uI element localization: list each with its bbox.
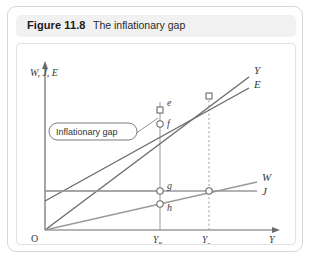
tick-yf-sub: F (157, 240, 163, 245)
x-axis-label: Y (269, 234, 276, 244)
curve-label-Y: Y (254, 64, 262, 76)
callout-label: Inflationary gap (56, 127, 118, 137)
point-marker-h (157, 201, 163, 207)
inflationary-gap-diagram: Y E W J e f g h W, J, E Y O YF (17, 44, 295, 244)
origin-label: O (31, 233, 38, 244)
point-marker-e (157, 107, 163, 113)
point-marker-ye-injections (206, 188, 212, 194)
e-expenditure-line (45, 88, 249, 201)
curve-label-J: J (262, 185, 268, 197)
curve-label-E: E (253, 78, 261, 90)
figure-header: Figure 11.8 The inflationary gap (16, 15, 296, 37)
figure-caption: The inflationary gap (93, 19, 185, 31)
y-axis-label: W, J, E (30, 67, 58, 78)
figure-card: Figure 11.8 The inflationary gap (7, 6, 303, 252)
point-marker-f (157, 121, 163, 127)
point-label-h: h (167, 202, 172, 213)
point-label-f: f (167, 118, 171, 129)
x-tick-yf: YF (153, 235, 163, 244)
tick-ye-sub: e (207, 240, 210, 245)
x-tick-ye: Ye (202, 235, 210, 244)
point-marker-ye-expenditure (206, 93, 212, 99)
curve-label-W: W (262, 171, 272, 183)
point-label-g: g (167, 180, 172, 191)
inflationary-gap-callout: Inflationary gap (49, 118, 158, 140)
point-label-e: e (167, 97, 172, 108)
point-marker-g (157, 188, 163, 194)
svg-text:Ye: Ye (202, 235, 210, 244)
callout-leader-line (135, 118, 158, 134)
x-axis-arrow (272, 227, 280, 233)
svg-text:YF: YF (153, 235, 163, 244)
figure-number: Figure 11.8 (27, 19, 86, 31)
plot-area: Y E W J e f g h W, J, E Y O YF (16, 43, 296, 245)
